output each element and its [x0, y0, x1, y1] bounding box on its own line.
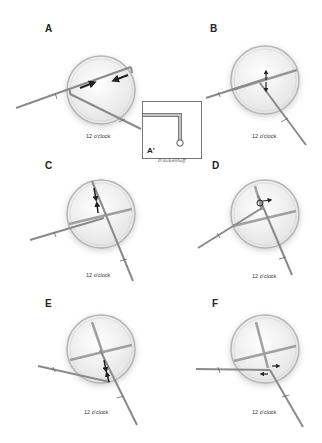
- instrument-left: [196, 369, 270, 370]
- inset-label: A': [147, 146, 155, 155]
- caption-a: 12 o'clock: [86, 133, 110, 139]
- inset-a-prime: A': [142, 101, 202, 159]
- caption-c: 12 o'clock: [86, 272, 110, 278]
- caption-f: 12 o'clock: [252, 409, 276, 415]
- panel-d-illustration: [198, 174, 307, 275]
- panel-label-a: A: [45, 23, 52, 34]
- panel-label-d: D: [212, 160, 219, 171]
- panel-b-illustration: [206, 40, 307, 145]
- panel-label-e: E: [45, 298, 52, 309]
- panel-label-f: F: [212, 298, 218, 309]
- panel-label-b: B: [210, 23, 217, 34]
- figure-canvas: [0, 0, 322, 443]
- arrow-icon: [97, 204, 98, 213]
- caption-d: 12 o'clock: [252, 273, 276, 279]
- artist-signature: D.Eckenhoff: [158, 158, 186, 163]
- caption-b: 12 o'clock: [252, 133, 276, 139]
- lens-capsule: [67, 56, 135, 124]
- panel-c-illustration: [30, 174, 143, 281]
- lens-capsule: [67, 180, 135, 248]
- panel-label-c: C: [45, 160, 52, 171]
- panel-e-illustration: [38, 309, 143, 425]
- caption-e: 12 o'clock: [84, 409, 108, 415]
- panel-a-illustration: [16, 50, 143, 134]
